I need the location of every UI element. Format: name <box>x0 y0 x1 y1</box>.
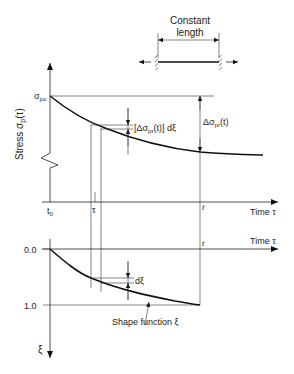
stress-axis-label: Stress σp(τ) <box>14 108 27 160</box>
fixed-support-right-icon <box>219 55 222 70</box>
shape-function-plot: ξ Time τ t 0.0 1.0 dξ Shape function ξ <box>24 236 278 358</box>
lower-time-axis-label: Time τ <box>250 236 276 246</box>
stress-increment-label: [Δσpr(t)] dξ <box>134 123 176 134</box>
constant-length-inset: Constant length <box>139 15 238 70</box>
shape-function-curve <box>50 249 200 305</box>
total-loss-label: Δσpr(t) <box>203 117 228 128</box>
axis-break-icon <box>41 153 58 168</box>
tick-t-lower: t <box>202 239 205 248</box>
upper-time-axis-label: Time τ <box>250 207 276 217</box>
tick-t0: t0 <box>47 206 54 217</box>
dxi-label: dξ <box>135 276 144 286</box>
shape-function-label: Shape function ξ <box>112 317 179 327</box>
inset-label-line1: Constant <box>170 15 210 26</box>
fixed-support-left-icon <box>155 55 158 70</box>
tick-t-upper: t <box>202 203 205 212</box>
tick-tau: τ <box>92 205 96 215</box>
stress-plot: Stress σp(τ) σpo [Δσpr(t)] dξ Δσpr(t) Ti… <box>14 63 278 217</box>
inset-label-line2: length <box>176 27 203 38</box>
y-tick-0: 0.0 <box>24 245 37 255</box>
xi-axis-label: ξ <box>38 344 43 356</box>
relaxation-diagram: Constant length Stress σp(τ) σpo [Δσpr(t… <box>0 0 294 374</box>
initial-stress-label: σpo <box>34 91 47 102</box>
y-tick-1: 1.0 <box>24 301 37 311</box>
